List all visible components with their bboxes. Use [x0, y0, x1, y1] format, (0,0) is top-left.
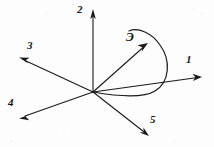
ray-1-group — [93, 74, 202, 92]
ray-2-group — [90, 9, 96, 92]
ray-3-group — [19, 58, 93, 93]
ray-4-group — [19, 92, 93, 120]
figure-drawing — [0, 0, 214, 147]
ray-3-label: 3 — [27, 40, 33, 51]
ray-5-group — [93, 92, 149, 136]
ray-curve-group — [93, 43, 148, 92]
ray-4-line — [25, 92, 93, 116]
ray-5-label: 5 — [150, 114, 156, 125]
ray-curve-line — [93, 48, 143, 93]
figure-container: 1 2 3 4 5 Э — [0, 0, 214, 147]
ray-1-label: 1 — [186, 54, 192, 65]
ray-3-line — [25, 61, 93, 93]
ray-1-line — [93, 78, 196, 92]
ray-5-arrowhead — [139, 127, 149, 136]
ray-2-label: 2 — [77, 4, 83, 15]
ray-1-arrowhead — [193, 74, 203, 81]
ray-4-label: 4 — [8, 97, 14, 108]
loop-curve-label: Э — [126, 31, 134, 43]
ray-5-line — [93, 92, 144, 132]
ray-3-arrowhead — [19, 58, 30, 64]
